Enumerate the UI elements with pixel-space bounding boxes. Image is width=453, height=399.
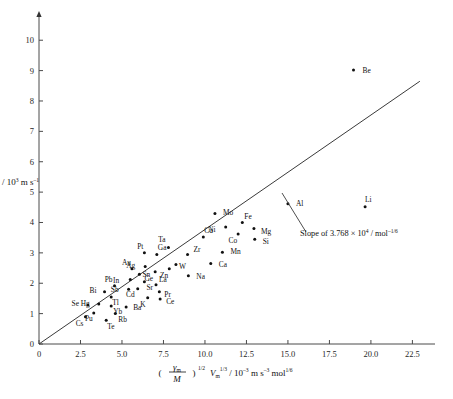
point-label: Be <box>362 66 371 75</box>
point-label: Zr <box>194 245 202 254</box>
point-label: Mo <box>223 208 234 217</box>
x-tick-label: 0 <box>37 349 41 359</box>
data-point: Be <box>352 66 371 75</box>
data-point: Mg <box>252 227 271 236</box>
y-tick-label: 10 <box>26 35 35 45</box>
point-marker <box>253 238 256 241</box>
x-axis-ticks: 02.55.07.510.012.515.017.520.022.5 <box>37 340 420 359</box>
data-point: Mo <box>213 208 233 217</box>
point-marker <box>158 290 161 293</box>
point-label: Rb <box>118 315 127 324</box>
point-label: Mn <box>230 247 241 256</box>
data-point: Ba <box>125 303 142 312</box>
annotation-main: Slope of 3.768 × 10 <box>300 229 366 238</box>
point-marker <box>202 236 205 239</box>
x-axis-title-units: m s <box>249 368 265 378</box>
annotation-exponent-2: –1/6 <box>387 228 398 234</box>
point-label: Bi <box>90 286 97 295</box>
data-point: K <box>140 296 149 309</box>
y-tick-label: 6 <box>30 157 34 167</box>
point-marker <box>224 226 227 229</box>
y-tick-label: 8 <box>30 96 34 106</box>
x-axis-title-M: M <box>172 374 181 384</box>
point-marker <box>146 296 149 299</box>
data-point: Li <box>364 195 372 209</box>
x-axis-title-paren-right: ) <box>193 368 196 378</box>
chart-svg: 01234567891002.55.07.510.012.515.017.520… <box>0 0 453 399</box>
point-label: Hg <box>81 299 90 308</box>
point-label: La <box>159 275 168 284</box>
x-axis-title-gamma: γm <box>173 362 182 373</box>
point-label: Ca <box>219 260 228 269</box>
annotation-text: Slope of 3.768 × 104 / mol–1/6 <box>300 228 398 238</box>
point-marker <box>364 205 367 208</box>
point-label: In <box>113 276 119 285</box>
y-tick-label: 9 <box>30 66 34 76</box>
point-marker <box>186 253 189 256</box>
y-axis-title-units-exp: –1 <box>33 177 40 183</box>
point-marker <box>114 312 117 315</box>
x-axis-title-rest-text: / 10 <box>227 368 244 378</box>
point-marker <box>213 212 216 215</box>
x-axis-title-paren-left: ( <box>159 368 162 378</box>
point-label: Sn <box>142 270 150 279</box>
point-marker <box>130 267 133 270</box>
point-marker <box>159 298 162 301</box>
y-tick-label: 5 <box>30 187 34 197</box>
point-marker <box>209 262 212 265</box>
y-axis-title: Um / 103 m s–1 <box>0 177 39 188</box>
point-marker <box>138 273 141 276</box>
y-tick-label: 0 <box>30 339 34 349</box>
data-point: Te <box>105 319 115 332</box>
point-label: Al <box>296 199 303 208</box>
annotation-mid: / mol <box>369 229 389 238</box>
data-point: Bi <box>90 286 106 295</box>
x-tick-label: 15.0 <box>280 349 295 359</box>
x-axis-title-V-sub: m <box>216 373 221 379</box>
point-label: Fe <box>244 212 252 221</box>
point-marker <box>113 284 116 287</box>
x-tick-label: 7.5 <box>158 349 169 359</box>
data-point: Na <box>187 272 206 281</box>
y-tick-label: 7 <box>30 126 34 136</box>
y-axis-title-rest: / 10 <box>0 177 16 187</box>
data-point: Sr <box>143 280 154 292</box>
x-axis-title: ()γmM1/2Vm1/3 / 10–3 m s–3 mol1/6 <box>159 362 293 384</box>
point-label: Cs <box>76 319 84 328</box>
data-point: Ce <box>159 297 175 306</box>
scatter-chart-figure: 01234567891002.55.07.510.012.515.017.520… <box>0 0 453 399</box>
x-axis-title-paren-exp: 1/2 <box>198 365 205 371</box>
point-marker <box>154 270 157 273</box>
data-points: BeLiAlMoNiFeCoMgSiMnCuCaNaTaWZnGaPtAgGeA… <box>72 66 372 331</box>
x-axis-title-mol: mol <box>269 368 286 378</box>
data-point: Si <box>253 237 269 246</box>
point-label: Na <box>196 272 205 281</box>
point-marker <box>143 251 146 254</box>
point-marker <box>221 251 224 254</box>
data-point: Ga <box>155 243 167 256</box>
x-tick-label: 22.5 <box>405 349 420 359</box>
point-marker <box>144 265 147 268</box>
x-axis-title-rest: Vm1/3 / 10–3 m s–3 mol1/6 <box>210 366 293 379</box>
y-axis-title-units: m s <box>19 177 35 187</box>
point-marker <box>84 315 87 318</box>
data-point: Co <box>229 233 240 246</box>
data-point: Fe <box>241 212 253 224</box>
point-label: Se <box>72 299 80 308</box>
point-marker <box>103 290 106 293</box>
y-tick-label: 2 <box>30 278 34 288</box>
y-axis-ticks: 012345678910 <box>26 35 44 349</box>
y-tick-label: 4 <box>30 217 35 227</box>
x-tick-label: 10.0 <box>198 349 213 359</box>
point-label: Si <box>263 237 269 246</box>
data-point: Pt <box>137 242 146 255</box>
point-label: Ga <box>158 243 167 252</box>
point-marker <box>155 283 158 286</box>
data-point: La <box>155 275 168 287</box>
point-marker <box>252 227 255 230</box>
point-label: Cd <box>126 290 135 299</box>
point-label: Cu <box>204 226 213 235</box>
point-label: Au <box>122 258 131 267</box>
x-tick-label: 5.0 <box>117 349 128 359</box>
data-point: Al <box>286 199 303 208</box>
